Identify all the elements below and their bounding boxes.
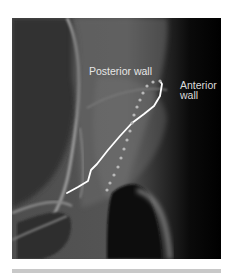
radiograph-figure: Posterior wall Anterior wall — [12, 18, 221, 259]
pelvis-xray-image — [12, 18, 221, 259]
anterior-label-line2: wall — [180, 90, 217, 100]
posterior-wall-label: Posterior wall — [89, 66, 152, 76]
anterior-wall-label: Anterior wall — [180, 80, 217, 100]
caption-divider — [12, 269, 221, 273]
